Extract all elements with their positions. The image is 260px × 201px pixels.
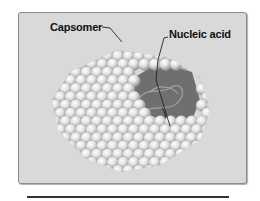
- bottom-rule: [27, 196, 229, 198]
- capsomer-label: Capsomer: [50, 21, 102, 33]
- nucleic-acid-label: Nucleic acid: [169, 28, 231, 40]
- capsomer-spheres: [44, 42, 240, 177]
- capsomer-leader-line: [102, 27, 122, 42]
